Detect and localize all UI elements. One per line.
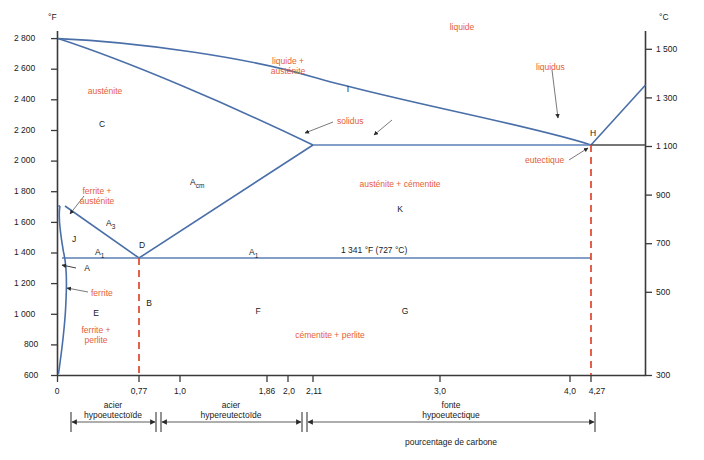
x-tick-427: 4,27: [589, 386, 606, 396]
liquidus-curve: [58, 39, 591, 145]
left-tick-2200: 2 200: [14, 125, 35, 135]
phase-label-ferrite: ferrite: [91, 288, 113, 298]
x-axis-title: pourcentage de carbone: [405, 437, 497, 447]
right-tick-1300: 1 300: [656, 93, 677, 103]
ferrite-austenite-line1: ferrite +: [82, 186, 111, 196]
a1-left-sub: 1: [101, 252, 105, 259]
left-axis-ticks: [51, 39, 58, 376]
liquide-austenite-line2: austénite: [271, 66, 306, 76]
region-letter-C: C: [99, 119, 105, 129]
left-tick-2400: 2 400: [14, 94, 35, 104]
left-tick-600: 600: [24, 370, 38, 380]
annotation-solidus: solidus: [337, 116, 363, 126]
phase-label-cementite-perlite: cémentite + perlite: [295, 330, 365, 340]
right-tick-900: 900: [656, 190, 670, 200]
right-axis-ticks: [646, 49, 653, 375]
region-letter-I: I: [347, 84, 349, 94]
region-letter-H: H: [590, 128, 596, 138]
ferrite-solvus-curve: [59, 206, 67, 374]
x-tick-40: 4,0: [564, 386, 576, 396]
phase-label-austenite: austénite: [88, 86, 123, 96]
right-tick-1100: 1 100: [656, 141, 677, 151]
region-letter-D: D: [139, 240, 145, 250]
annotation-liquidus: liquidus: [536, 62, 565, 72]
bottom-axis-ticks: [58, 376, 592, 383]
right-tick-300: 300: [656, 370, 670, 380]
left-tick-1000: 1 000: [14, 309, 35, 319]
acm-curve: [139, 145, 313, 258]
curve-label-a1-left: A1: [95, 247, 104, 259]
region-letter-G: G: [402, 306, 409, 316]
bracket1-line2: hypoeutectoïde: [84, 410, 142, 420]
left-tick-1400: 1 400: [14, 247, 35, 257]
bracket-label-acier-hypereutectoide: acier hypereutectoïde: [201, 400, 262, 420]
acm-sub: cm: [196, 182, 205, 189]
solidus-leader-left: [305, 122, 333, 133]
phase-label-austenite-cementite: austénite + cémentite: [359, 179, 440, 189]
phase-label-liquide: liquide: [450, 22, 475, 32]
region-letter-J: J: [72, 234, 76, 244]
x-tick-20: 2,0: [283, 386, 295, 396]
ferrite-perlite-line1: ferrite +: [81, 325, 110, 335]
liquide-austenite-line1: liquide +: [272, 56, 304, 66]
bracket3-line2: hypoeutectique: [422, 410, 480, 420]
liquidus-leader: [552, 70, 558, 118]
right-tick-500: 500: [656, 287, 670, 297]
annotation-eutectique: eutectique: [525, 155, 564, 165]
bracket1-line1: acier: [104, 400, 122, 410]
left-axis-unit: °F: [48, 12, 57, 22]
eutectoid-temperature-note: 1 341 °F (727 °C): [341, 245, 407, 255]
x-tick-211: 2,11: [306, 386, 322, 396]
eutectique-leader: [569, 148, 588, 160]
bracket-label-fonte-hypoeutectique: fonte hypoeutectique: [422, 400, 480, 420]
a-region-leader: [62, 265, 76, 268]
left-tick-2000: 2 000: [14, 155, 35, 165]
left-tick-2800: 2 800: [14, 33, 35, 43]
right-tick-1500: 1 500: [656, 44, 677, 54]
left-tick-1800: 1 800: [14, 186, 35, 196]
curve-label-a3: A3: [106, 218, 115, 230]
right-tick-700: 700: [656, 238, 670, 248]
ferrite-austenite-line2: austénite: [80, 196, 115, 206]
curve-label-a1-right: A1: [249, 247, 258, 259]
phase-label-ferrite-austenite: ferrite + austénite: [80, 186, 115, 206]
x-tick-0: 0: [55, 386, 60, 396]
curve-label-acm: Acm: [190, 177, 204, 189]
x-tick-30: 3,0: [434, 386, 446, 396]
bracket3-line1: fonte: [442, 400, 461, 410]
phase-label-ferrite-perlite: ferrite + perlite: [81, 325, 110, 345]
ferrite-leader: [67, 288, 88, 292]
bracket-label-acier-hypoeutectoide: acier hypoeutectoïde: [84, 400, 142, 420]
solidus-leader-right: [374, 120, 392, 135]
cementite-liquidus-curve: [591, 85, 646, 145]
x-tick-077: 0,77: [131, 386, 148, 396]
a1-right-sub: 1: [255, 252, 259, 259]
a3-sub: 3: [112, 223, 116, 230]
left-tick-1600: 1 600: [14, 217, 35, 227]
left-tick-2600: 2 600: [14, 63, 35, 73]
right-axis-unit: °C: [659, 12, 669, 22]
region-letter-K: K: [397, 204, 403, 214]
left-tick-1200: 1 200: [14, 278, 35, 288]
ferrite-perlite-line2: perlite: [84, 335, 107, 345]
x-tick-10: 1,0: [174, 386, 186, 396]
region-letter-B: B: [146, 298, 152, 308]
region-letter-A: A: [84, 263, 90, 273]
region-letter-F: F: [255, 306, 260, 316]
phase-label-liquide-austenite: liquide + austénite: [271, 56, 306, 76]
bracket2-line2: hypereutectoïde: [201, 410, 262, 420]
left-tick-800: 800: [24, 339, 38, 349]
region-letter-E: E: [93, 308, 99, 318]
x-tick-186: 1,86: [259, 386, 276, 396]
bracket2-line1: acier: [222, 400, 240, 410]
